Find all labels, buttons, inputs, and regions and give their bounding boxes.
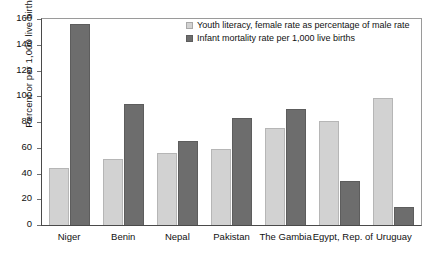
bar-infant-mortality [124, 104, 144, 225]
x-axis-label: The Gambia [259, 231, 313, 242]
x-axis-label: Pakistan [204, 231, 258, 242]
bar-youth-literacy [157, 153, 177, 225]
bar-infant-mortality [286, 109, 306, 225]
bar-infant-mortality [340, 181, 360, 225]
legend-swatch-icon [186, 22, 193, 29]
bar-group [42, 19, 96, 225]
bar-group [96, 19, 150, 225]
bar-infant-mortality [232, 118, 252, 225]
y-axis-tick-label: 0 [27, 218, 32, 229]
bar-infant-mortality [178, 141, 198, 225]
bar-infant-mortality [70, 24, 90, 225]
y-axis-tick-label: 20 [21, 192, 32, 203]
bar-youth-literacy [319, 121, 339, 225]
legend-item: Infant mortality rate per 1,000 live bir… [186, 33, 410, 45]
bar-chart: Percent or per 1,000 live births 0204060… [0, 0, 433, 261]
x-axis-label: Benin [96, 231, 150, 242]
bar-group [204, 19, 258, 225]
y-axis-tick-label: 140 [16, 38, 32, 49]
legend-label: Youth literacy, female rate as percentag… [197, 20, 410, 32]
x-axis-label: Egypt, Rep. of [313, 231, 367, 242]
y-axis-tick-label: 160 [16, 12, 32, 23]
x-axis-label: Uruguay [367, 231, 421, 242]
bar-infant-mortality [394, 207, 414, 225]
y-axis-tick-label: 60 [21, 141, 32, 152]
bar-youth-literacy [211, 149, 231, 225]
chart-legend: Youth literacy, female rate as percentag… [186, 20, 410, 46]
x-axis-label: Nepal [150, 231, 204, 242]
bar-youth-literacy [103, 159, 123, 225]
y-axis-tick-label: 100 [16, 89, 32, 100]
bar-group [150, 19, 204, 225]
bar-series-container [42, 19, 421, 225]
bar-youth-literacy [49, 168, 69, 225]
y-axis-tick-label: 120 [16, 64, 32, 75]
bar-group [367, 19, 421, 225]
legend-item: Youth literacy, female rate as percentag… [186, 20, 410, 32]
x-axis-label: Niger [42, 231, 96, 242]
y-axis-tick-label: 40 [21, 167, 32, 178]
bar-youth-literacy [373, 98, 393, 225]
y-axis-tick-label: 80 [21, 115, 32, 126]
bar-group [313, 19, 367, 225]
legend-swatch-icon [186, 35, 193, 42]
legend-label: Infant mortality rate per 1,000 live bir… [197, 33, 355, 45]
bar-group [259, 19, 313, 225]
bar-youth-literacy [265, 128, 285, 225]
